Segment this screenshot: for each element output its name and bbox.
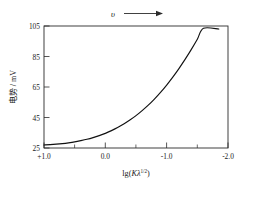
y-axis-title-separator: / xyxy=(9,83,18,86)
right-arrow-head-icon xyxy=(156,11,163,16)
y-tick-label: 45 xyxy=(33,114,41,123)
y-tick-label: 105 xyxy=(29,22,40,31)
svg-text:lg(Kλ1/2): lg(Kλ1/2) xyxy=(122,168,150,178)
potential-curve xyxy=(44,28,219,145)
x-axis-title-suffix: ) xyxy=(147,169,150,178)
y-tick-label: 85 xyxy=(33,53,41,62)
x-tick-label: +1.0 xyxy=(37,152,51,161)
y-axis-ticks xyxy=(44,26,50,148)
x-axis-minor-ticks xyxy=(75,145,198,149)
x-axis-title-prefix: lg( xyxy=(122,169,131,178)
y-axis-title-quantity: 电势 xyxy=(8,88,18,104)
y-axis-title: 电势/mV xyxy=(8,70,18,104)
x-tick-label: -1.0 xyxy=(161,152,173,161)
y-tick-label: 65 xyxy=(33,83,41,92)
x-tick-labels: +1.0 0.0 -1.0 -2.0 xyxy=(37,152,234,161)
x-axis-title: lg(Kλ1/2) xyxy=(122,168,150,178)
chart-canvas: 105 85 65 45 25 +1.0 0.0 -1.0 -2.0 电势/mV… xyxy=(0,0,253,197)
scan-rate-annotation: υ xyxy=(111,9,163,19)
x-tick-label: 0.0 xyxy=(101,152,111,161)
chart-figure: 105 85 65 45 25 +1.0 0.0 -1.0 -2.0 电势/mV… xyxy=(0,0,253,197)
y-tick-labels: 105 85 65 45 25 xyxy=(29,22,40,153)
svg-text:电势/mV: 电势/mV xyxy=(8,70,18,104)
data-series-group xyxy=(44,28,219,145)
upsilon-symbol: υ xyxy=(111,9,115,19)
plot-frame xyxy=(44,26,228,148)
y-axis-title-unit: mV xyxy=(9,70,18,82)
x-tick-label: -2.0 xyxy=(222,152,234,161)
